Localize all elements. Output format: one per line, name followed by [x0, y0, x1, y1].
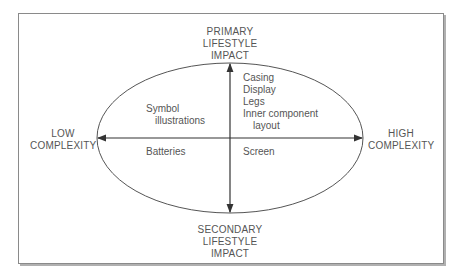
axis-label-right: HIGH COMPLEXITY — [368, 128, 434, 152]
axis-label-bottom: SECONDARY LIFESTYLE IMPACT — [190, 224, 270, 260]
quadrant-item: Display — [243, 84, 343, 96]
quadrant-bottom-left: Batteries — [146, 146, 185, 158]
quadrant-top-left: Symbol illustrations — [146, 103, 216, 127]
quadrant-item: Symbol — [146, 103, 216, 115]
axis-label-left: LOW COMPLEXITY — [30, 128, 96, 152]
quadrant-item: Screen — [243, 146, 275, 158]
axis-label-bottom-line: IMPACT — [190, 248, 270, 260]
quadrant-item: Inner component — [243, 108, 343, 120]
axis-label-top: PRIMARY LIFESTYLE IMPACT — [195, 26, 265, 62]
axis-label-top-line: PRIMARY — [195, 26, 265, 38]
axis-label-top-line: IMPACT — [195, 50, 265, 62]
axis-label-bottom-line: SECONDARY — [190, 224, 270, 236]
quadrant-item: layout — [243, 120, 343, 132]
axis-label-right-line: COMPLEXITY — [368, 140, 434, 152]
quadrant-item: Legs — [243, 96, 343, 108]
axis-label-bottom-line: LIFESTYLE — [190, 236, 270, 248]
quadrant-item: Casing — [243, 72, 343, 84]
axis-label-top-line: LIFESTYLE — [195, 38, 265, 50]
axis-label-right-line: HIGH — [368, 128, 434, 140]
axis-label-left-line: LOW — [30, 128, 96, 140]
quadrant-item: illustrations — [146, 115, 216, 127]
quadrant-top-right: Casing Display Legs Inner component layo… — [243, 72, 343, 132]
axis-label-left-line: COMPLEXITY — [30, 140, 96, 152]
quadrant-bottom-right: Screen — [243, 146, 275, 158]
quadrant-item: Batteries — [146, 146, 185, 158]
